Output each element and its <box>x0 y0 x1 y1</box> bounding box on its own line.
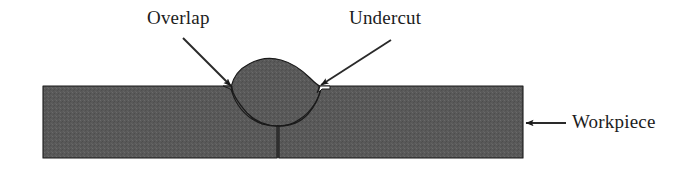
undercut-leader-arrow <box>321 40 391 85</box>
weld-cross-section-diagram <box>0 0 687 171</box>
overlap-label: Overlap <box>147 8 210 28</box>
undercut-label: Undercut <box>349 8 421 28</box>
workpiece-label: Workpiece <box>572 112 656 132</box>
overlap-leader-arrow <box>183 38 231 86</box>
weld-defect-figure: Overlap Undercut Workpiece <box>0 0 687 171</box>
